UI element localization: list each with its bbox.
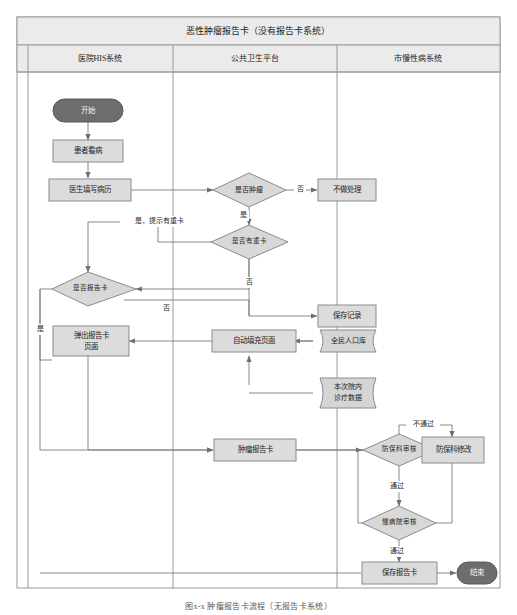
node-is-duplicate-label: 是否有重卡 [232, 236, 267, 245]
node-start-label: 开始 [81, 105, 96, 115]
node-popup-report-card-label-line1: 弹出报告卡 [74, 330, 110, 340]
edge-label-dup-yes: 是，提示有重卡 [135, 216, 184, 225]
edge-label-dup-no: 否 [246, 278, 253, 286]
node-dept-modify[interactable]: 防保科修改 [422, 437, 484, 463]
node-auto-fill-page[interactable]: 自动填充页面 [212, 330, 296, 352]
node-visit-data-database-label-line1: 本次院内 [334, 382, 362, 391]
edge-label-dept-pass: 通过 [390, 481, 404, 490]
node-save-report-card[interactable]: 保存报告卡 [362, 562, 437, 584]
node-popup-report-card[interactable]: 弹出报告卡 页面 [53, 326, 129, 356]
node-end-label: 结束 [470, 567, 485, 577]
node-end[interactable]: 结束 [457, 562, 497, 584]
node-hospital-audit-label: 慢病院审核 [382, 517, 417, 526]
node-population-database-label: 全民人口库 [331, 336, 366, 345]
node-patient-visit-label: 患者看病 [74, 145, 103, 155]
edge-label-hosp-pass: 通过 [390, 546, 404, 555]
figure-container: 恶性肿瘤报告卡（没有报告卡系统） 医院HIS系统 公共卫生平台 市慢性病系统 [0, 0, 517, 615]
node-dept-audit-label: 防保科审核 [382, 444, 417, 453]
node-visit-data-database[interactable]: 本次院内 诊疗数据 [320, 378, 376, 408]
flowchart-canvas: 恶性肿瘤报告卡（没有报告卡系统） 医院HIS系统 公共卫生平台 市慢性病系统 [0, 0, 517, 615]
node-popup-report-card-label-line2: 页面 [84, 342, 99, 351]
node-save-report-card-label: 保存报告卡 [382, 567, 418, 577]
node-auto-fill-page-label: 自动填充页面 [233, 335, 276, 345]
node-tumor-report-card[interactable]: 肿瘤报告卡 [214, 439, 296, 461]
node-is-tumor-label: 是否肿瘤 [235, 185, 263, 194]
node-dept-modify-label: 防保科修改 [436, 444, 472, 454]
lane-header-public-health: 公共卫生平台 [231, 53, 279, 63]
lane-header-his: 医院HIS系统 [78, 53, 123, 63]
edge-label-card-no: 否 [163, 304, 170, 312]
node-patient-visit[interactable]: 患者看病 [53, 140, 123, 162]
node-has-report-card-label: 是否报告卡 [73, 283, 108, 292]
node-save-record[interactable]: 保存记录 [318, 305, 376, 327]
edge-label-dept-fail: 不通过 [413, 419, 434, 428]
node-no-action[interactable]: 不做处理 [318, 179, 376, 201]
node-doctor-writes-record[interactable]: 医生填写病历 [49, 179, 131, 201]
edge-label-tumor-yes: 是 [240, 211, 247, 219]
node-start[interactable]: 开始 [53, 99, 123, 122]
node-save-record-label: 保存记录 [333, 310, 362, 320]
node-population-database[interactable]: 全民人口库 [320, 330, 376, 352]
node-no-action-label: 不做处理 [333, 184, 362, 194]
node-visit-data-database-label-line2: 诊疗数据 [334, 393, 362, 402]
page-title: 恶性肿瘤报告卡（没有报告卡系统） [186, 25, 330, 36]
figure-caption: 图x-x 肿瘤报告卡流程（无报告卡系统） [0, 600, 517, 611]
node-doctor-writes-record-label: 医生填写病历 [69, 184, 112, 194]
lane-header-chronic: 市慢性病系统 [394, 53, 442, 63]
edge-label-tumor-no: 否 [297, 185, 304, 193]
node-tumor-report-card-label: 肿瘤报告卡 [238, 444, 274, 454]
edge-label-card-yes: 是 [37, 325, 44, 333]
